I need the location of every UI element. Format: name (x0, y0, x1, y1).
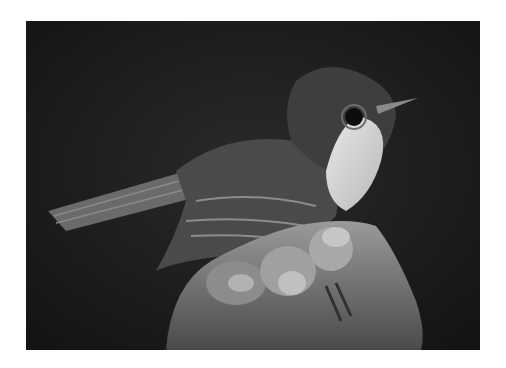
photograph (26, 21, 480, 350)
bird-in-hand-image (26, 21, 480, 350)
